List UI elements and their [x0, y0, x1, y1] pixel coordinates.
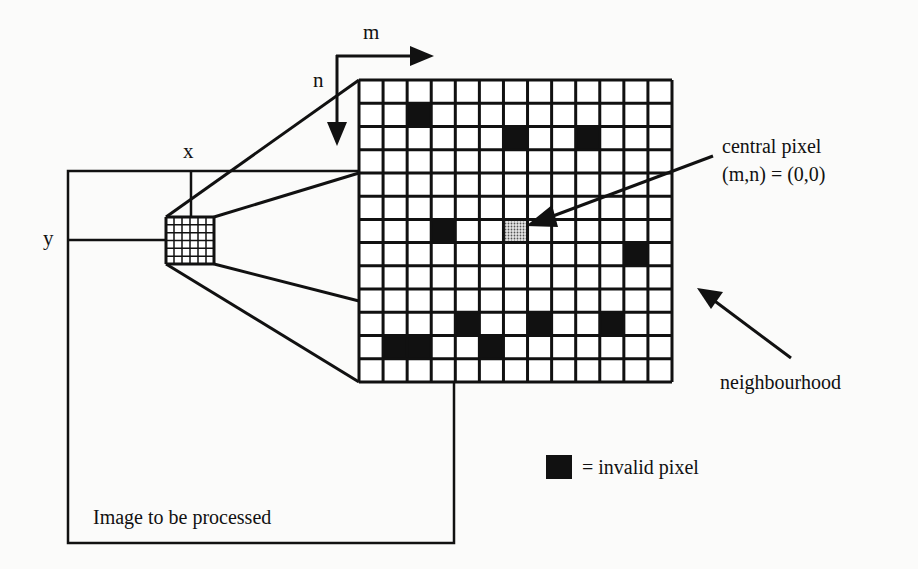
invalid-pixel: [479, 336, 503, 359]
legend-invalid-label: = invalid pixel: [582, 457, 699, 477]
small-window-grid: [166, 217, 214, 264]
neighbourhood-grid: [359, 80, 672, 382]
central-pixel-coords: (m,n) = (0,0): [722, 164, 825, 184]
central-pixel-label: central pixel: [722, 136, 821, 156]
invalid-pixel: [600, 312, 624, 335]
invalid-pixel: [624, 243, 648, 266]
invalid-pixel: [528, 312, 552, 335]
invalid-pixel: [503, 126, 527, 149]
m-axis-label: m: [363, 22, 379, 43]
neighbourhood-arrow: [697, 288, 791, 358]
legend-invalid-swatch: [546, 455, 572, 479]
invalid-pixel: [431, 219, 455, 242]
invalid-pixel: [383, 336, 407, 359]
m-axis-arrow: [336, 46, 434, 66]
invalid-pixel: [455, 312, 479, 335]
neighbourhood-label: neighbourhood: [720, 372, 841, 392]
central-pixel: [503, 219, 527, 242]
n-axis-label: n: [313, 70, 324, 91]
diagram-canvas: [0, 0, 918, 569]
invalid-pixel: [407, 336, 431, 359]
x-axis-label: x: [183, 141, 194, 162]
image-label: Image to be processed: [93, 507, 271, 527]
y-axis-label: y: [43, 228, 54, 249]
invalid-pixel: [407, 103, 431, 126]
invalid-pixel: [576, 126, 600, 149]
